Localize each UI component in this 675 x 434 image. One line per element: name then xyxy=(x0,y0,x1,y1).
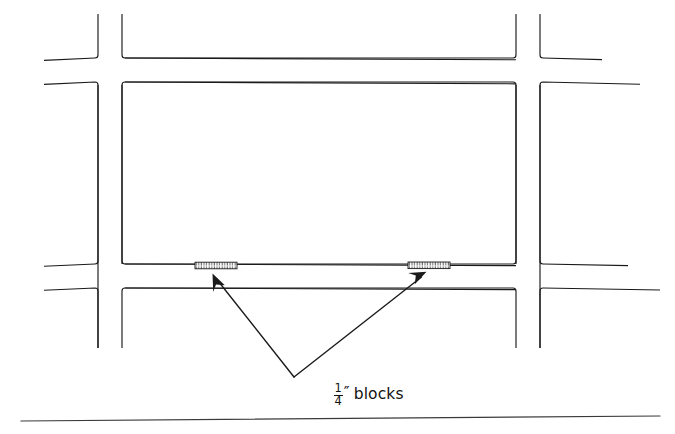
br-corner-sw xyxy=(125,288,516,348)
top-right-intersection xyxy=(125,14,640,348)
right-leader-line xyxy=(294,277,422,377)
bl-corner-nw xyxy=(44,85,98,266)
road-network xyxy=(44,14,660,348)
top-left-intersection xyxy=(44,14,516,348)
street-grid-diagram xyxy=(0,0,675,434)
left-block xyxy=(195,262,237,269)
tr-corner-nw xyxy=(125,14,516,58)
tl-corner-se xyxy=(122,82,516,264)
left-leader-line xyxy=(217,279,295,377)
br-corner-nw xyxy=(125,85,516,264)
tr-corner-sw xyxy=(125,82,516,264)
bottom-right-intersection xyxy=(125,85,660,348)
bottom-left-intersection xyxy=(44,85,516,348)
bl-corner-sw xyxy=(44,288,98,348)
bl-corner-ne xyxy=(122,85,516,266)
bottom-horizontal-rule xyxy=(21,416,660,421)
right-arrow-head xyxy=(408,272,426,284)
tl-corner-ne xyxy=(122,14,516,60)
tr-corner-se xyxy=(540,82,640,348)
right-block xyxy=(408,262,450,269)
tr-corner-ne xyxy=(540,14,602,60)
br-corner-se xyxy=(540,288,660,348)
figure-root: 1 4 ″blocks xyxy=(0,0,675,434)
tl-corner-sw xyxy=(44,82,98,348)
bl-corner-se xyxy=(122,288,516,348)
left-arrow-head xyxy=(213,274,225,293)
br-corner-ne xyxy=(540,85,628,266)
tl-corner-nw xyxy=(44,14,98,60)
blocks-group xyxy=(195,262,450,269)
